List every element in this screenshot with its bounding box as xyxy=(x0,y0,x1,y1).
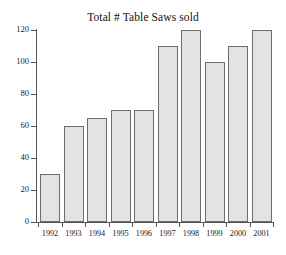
x-axis-tick xyxy=(156,222,157,227)
x-axis-tick xyxy=(226,222,227,227)
chart-title: Total # Table Saws sold xyxy=(0,11,286,23)
y-axis-label: 0 xyxy=(0,217,29,227)
y-axis-label-text: 40 xyxy=(1,153,29,162)
x-axis-tick xyxy=(38,222,39,227)
bar-2001 xyxy=(252,30,272,222)
bar-1999 xyxy=(205,62,225,222)
y-axis-label-text: 60 xyxy=(1,121,29,130)
y-axis-label: 80 xyxy=(0,89,29,99)
x-axis-tick xyxy=(273,222,274,227)
y-axis-label-text: 20 xyxy=(1,185,29,194)
x-axis-tick xyxy=(250,222,251,227)
bar-chart: Total # Table Saws sold 020406080100120 … xyxy=(0,0,286,255)
x-axis-line xyxy=(36,222,273,223)
y-axis-label-text: 120 xyxy=(1,25,29,34)
y-axis-label-text: 100 xyxy=(1,57,29,66)
y-axis-tick xyxy=(31,94,37,95)
y-axis-label-text: 0 xyxy=(1,217,29,226)
bar-1998 xyxy=(181,30,201,222)
bar-1992 xyxy=(40,174,60,222)
y-axis-tick xyxy=(31,30,37,31)
y-axis-label: 60 xyxy=(0,121,29,131)
bar-1995 xyxy=(111,110,131,222)
x-axis-tick xyxy=(132,222,133,227)
y-axis-tick xyxy=(31,62,37,63)
x-axis-label: 2001 xyxy=(247,229,277,238)
bar-1997 xyxy=(158,46,178,222)
y-axis-tick xyxy=(31,158,37,159)
bar-1994 xyxy=(87,118,107,222)
y-axis-tick xyxy=(31,126,37,127)
x-axis-tick xyxy=(62,222,63,227)
y-axis-label: 100 xyxy=(0,57,29,67)
bar-2000 xyxy=(228,46,248,222)
bar-1996 xyxy=(134,110,154,222)
bar-1993 xyxy=(64,126,84,222)
y-axis-label-text: 80 xyxy=(1,89,29,98)
y-axis-label: 20 xyxy=(0,185,29,195)
y-axis-tick xyxy=(31,190,37,191)
y-axis-tick xyxy=(31,222,37,223)
x-axis-tick xyxy=(109,222,110,227)
x-axis-tick xyxy=(203,222,204,227)
y-axis-label: 40 xyxy=(0,153,29,163)
x-axis-tick xyxy=(179,222,180,227)
y-axis-label: 120 xyxy=(0,25,29,35)
x-axis-tick xyxy=(85,222,86,227)
